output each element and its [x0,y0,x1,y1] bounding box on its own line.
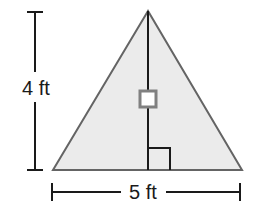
height-tick-square-icon [140,91,156,107]
height-dimension-label: 4 ft [22,77,50,99]
height-dimension-group: 4 ft [22,12,50,170]
base-dimension-label: 5 ft [129,181,157,203]
base-dimension-group: 5 ft [52,181,240,203]
geometry-diagram-svg: Triangle with base 5 ft and height 4 ft … [0,0,253,213]
geometry-figure: Triangle with base 5 ft and height 4 ft … [0,0,253,213]
